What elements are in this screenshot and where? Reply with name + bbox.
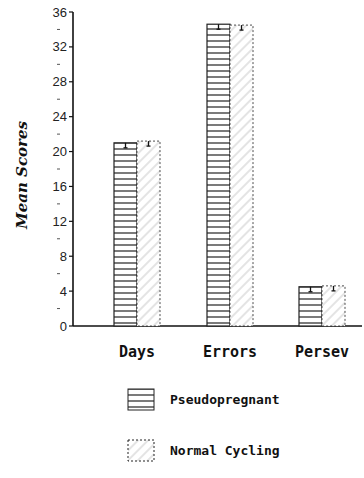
y-tick-label: 0 bbox=[60, 319, 67, 334]
y-tick-label: 28 bbox=[53, 74, 67, 89]
bar-chart: 04812162024283236 Mean Scores DaysErrors… bbox=[0, 0, 364, 478]
x-category-label: Days bbox=[119, 343, 155, 361]
y-tick-label: 8 bbox=[60, 249, 67, 264]
legend-swatch bbox=[128, 440, 154, 461]
bars bbox=[114, 24, 345, 326]
y-tick-label: 4 bbox=[60, 284, 67, 299]
bar-normal-cycling-days bbox=[137, 141, 160, 326]
x-category-label: Errors bbox=[203, 343, 257, 361]
x-category-label: Persev bbox=[295, 343, 349, 361]
y-axis-label: Mean Scores bbox=[13, 121, 31, 230]
bar-pseudopregnant-errors bbox=[207, 24, 230, 326]
x-axis-labels: DaysErrorsPersev bbox=[119, 343, 349, 361]
y-tick-label: 36 bbox=[53, 5, 67, 20]
y-tick-label: 16 bbox=[53, 179, 67, 194]
legend-label: Pseudopregnant bbox=[170, 392, 280, 407]
bar-pseudopregnant-persev bbox=[299, 287, 322, 326]
y-tick-label: 32 bbox=[53, 39, 67, 54]
legend-label: Normal Cycling bbox=[170, 443, 280, 458]
bar-pseudopregnant-days bbox=[114, 143, 137, 326]
y-tick-label: 20 bbox=[53, 144, 67, 159]
bar-normal-cycling-errors bbox=[230, 25, 253, 326]
y-tick-label: 12 bbox=[53, 214, 67, 229]
y-tick-label: 24 bbox=[53, 109, 67, 124]
legend-swatch bbox=[128, 389, 154, 410]
legend: PseudopregnantNormal Cycling bbox=[128, 389, 280, 461]
bar-normal-cycling-persev bbox=[322, 286, 345, 326]
